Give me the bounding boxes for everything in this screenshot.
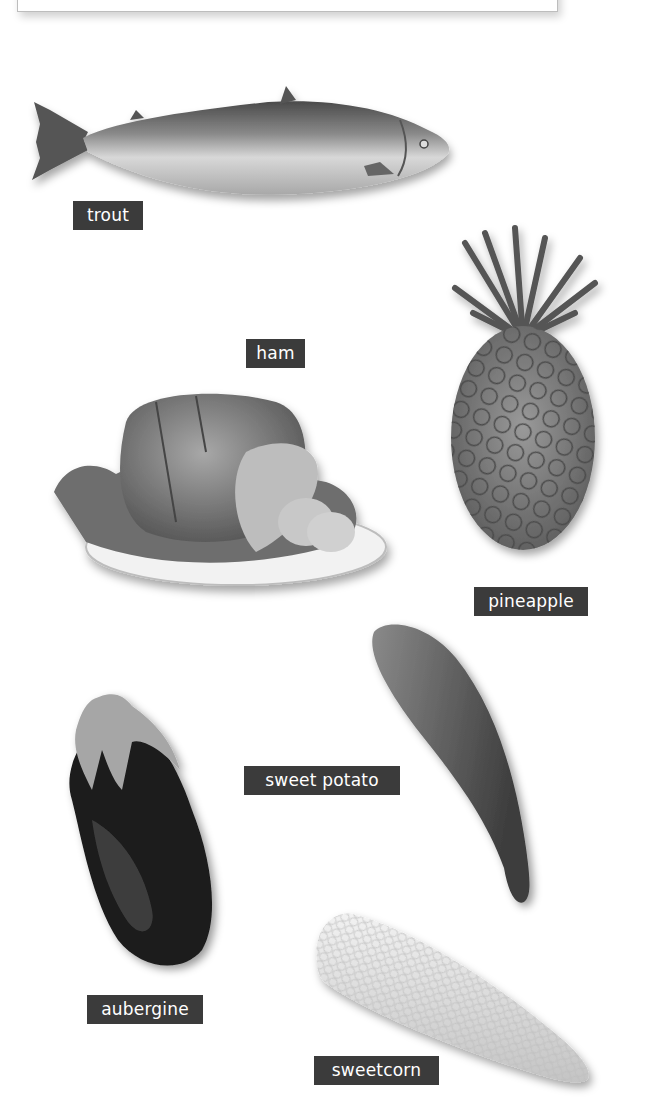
ham-image [46, 382, 388, 588]
sweet-potato-label: sweet potato [244, 766, 400, 795]
ham-label: ham [246, 339, 305, 368]
trout-label: trout [73, 201, 143, 230]
trout-image [28, 80, 454, 204]
aubergine-image [62, 690, 222, 970]
aubergine-label: aubergine [87, 995, 203, 1024]
sweet-potato-image [366, 618, 536, 906]
top-panel-edge [17, 0, 558, 12]
pineapple-image [445, 228, 603, 553]
sweetcorn-label: sweetcorn [314, 1056, 439, 1085]
pineapple-label: pineapple [474, 587, 588, 616]
